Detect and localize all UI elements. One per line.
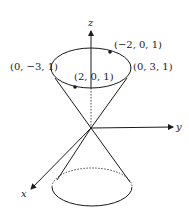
bottom-ellipse-back bbox=[52, 168, 132, 187]
point-label-0-3-1: (0, 3, 1) bbox=[133, 61, 173, 72]
double-cone-diagram: z y x (0, −3, 1) (−2, 0, 1) (0, 3, 1) (2… bbox=[0, 0, 189, 214]
point-2-0-1 bbox=[73, 85, 77, 89]
x-axis bbox=[31, 128, 91, 189]
point-label-minus2-0-1: (−2, 0, 1) bbox=[114, 39, 162, 50]
point-label-0-minus3-1: (0, −3, 1) bbox=[10, 61, 58, 72]
x-axis-label: x bbox=[21, 188, 27, 199]
point-minus2-0-1 bbox=[108, 50, 112, 54]
bottom-ellipse-front bbox=[52, 187, 132, 206]
bottom-cone-right-side bbox=[91, 128, 130, 182]
point-label-2-0-1: (2, 0, 1) bbox=[74, 71, 114, 82]
y-axis bbox=[91, 127, 173, 128]
z-axis-label: z bbox=[87, 17, 94, 28]
y-axis-label: y bbox=[175, 121, 182, 132]
bottom-cone-left-side bbox=[57, 128, 91, 180]
